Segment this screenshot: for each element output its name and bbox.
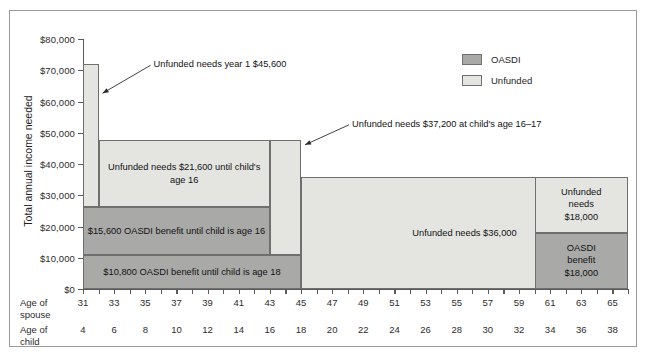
y-tick-label: $30,000 — [40, 190, 75, 201]
x-tick — [535, 289, 536, 294]
x-tick — [176, 289, 177, 294]
y-tick-label: $70,000 — [40, 65, 75, 76]
x-tick-label-child: 18 — [296, 324, 307, 335]
y-tick-label: $20,000 — [40, 221, 75, 232]
x-tick-label-spouse: 53 — [420, 297, 431, 308]
x-tick-label-spouse: 51 — [389, 297, 400, 308]
x-tick — [145, 289, 146, 294]
legend-label-unfunded: Unfunded — [491, 75, 532, 86]
y-tick-label: $80,000 — [40, 34, 75, 45]
chart-legend: OASDI Unfunded — [462, 51, 592, 93]
x-tick-label-spouse: 45 — [296, 297, 307, 308]
x-tick — [83, 289, 84, 294]
x-tick — [472, 289, 473, 294]
x-tick — [566, 289, 567, 294]
y-tick-label: $50,000 — [40, 127, 75, 138]
y-tick-label: $60,000 — [40, 96, 75, 107]
legend-item-unfunded: Unfunded — [462, 72, 592, 88]
x-tick-label-spouse: 57 — [483, 297, 494, 308]
y-tick-label: $40,000 — [40, 159, 75, 170]
x-tick — [457, 289, 458, 294]
y-tick-label: $10,000 — [40, 252, 75, 263]
x-tick — [332, 289, 333, 294]
x-tick — [597, 289, 598, 294]
x-tick — [550, 289, 551, 294]
x-tick — [363, 289, 364, 294]
x-tick — [239, 289, 240, 294]
x-tick — [285, 289, 286, 294]
x-tick-label-spouse: 43 — [265, 297, 276, 308]
x-tick — [301, 289, 302, 294]
x-tick-label-child: 4 — [80, 324, 85, 335]
x-tick-label-spouse: 61 — [545, 297, 556, 308]
x-tick-label-spouse: 55 — [451, 297, 462, 308]
x-tick — [581, 289, 582, 294]
x-tick-label-spouse: 65 — [607, 297, 618, 308]
x-tick-label-spouse: 63 — [576, 297, 587, 308]
x-tick-label-child: 16 — [265, 324, 276, 335]
x-tick — [441, 289, 442, 294]
chart-root: Total annual income needed Age of spouse… — [0, 0, 647, 359]
x-tick — [161, 289, 162, 294]
x-tick-label-spouse: 59 — [514, 297, 525, 308]
x-tick-label-child: 20 — [327, 324, 338, 335]
x-tick-label-child: 26 — [420, 324, 431, 335]
x-tick — [488, 289, 489, 294]
x-tick-label-spouse: 33 — [109, 297, 120, 308]
x-tick — [379, 289, 380, 294]
x-tick — [426, 289, 427, 294]
x-tick-label-child: 10 — [171, 324, 182, 335]
x-tick-label-child: 22 — [358, 324, 369, 335]
x-tick-label-spouse: 31 — [78, 297, 89, 308]
x-tick-label-child: 6 — [111, 324, 116, 335]
x-tick — [394, 289, 395, 294]
x-tick-label-child: 32 — [514, 324, 525, 335]
x-tick-label-child: 34 — [545, 324, 556, 335]
y-tick-label: $0 — [64, 284, 75, 295]
x-tick — [628, 289, 629, 294]
x-tick-label-child: 30 — [483, 324, 494, 335]
x-tick — [130, 289, 131, 294]
x-tick-label-spouse: 47 — [327, 297, 338, 308]
annotation-label: Unfunded needs $37,200 at child's age 16… — [352, 119, 541, 129]
x-tick-label-spouse: 39 — [202, 297, 213, 308]
x-tick-label-child: 8 — [143, 324, 148, 335]
axis-row-label-spouse: Age of spouse — [20, 297, 51, 320]
legend-swatch-unfunded — [462, 75, 482, 86]
x-tick-label-spouse: 35 — [140, 297, 151, 308]
x-tick — [519, 289, 520, 294]
x-axis-line — [83, 289, 628, 290]
x-tick — [348, 289, 349, 294]
x-tick-label-spouse: 49 — [358, 297, 369, 308]
x-tick — [503, 289, 504, 294]
x-tick-label-spouse: 37 — [171, 297, 182, 308]
x-tick-label-child: 12 — [202, 324, 213, 335]
x-tick-label-child: 14 — [233, 324, 244, 335]
axis-row-label-child: Age of child — [20, 324, 47, 347]
legend-swatch-oasdi — [462, 54, 482, 65]
x-tick — [99, 289, 100, 294]
x-tick — [208, 289, 209, 294]
x-tick-label-child: 24 — [389, 324, 400, 335]
x-tick — [612, 289, 613, 294]
x-tick — [114, 289, 115, 294]
y-axis-title: Total annual income needed — [22, 95, 34, 226]
x-tick-label-child: 38 — [607, 324, 618, 335]
x-tick-label-child: 36 — [576, 324, 587, 335]
x-tick-label-child: 28 — [451, 324, 462, 335]
x-tick — [317, 289, 318, 294]
legend-label-oasdi: OASDI — [491, 54, 521, 65]
x-tick — [410, 289, 411, 294]
x-tick — [270, 289, 271, 294]
x-tick — [254, 289, 255, 294]
x-tick-label-spouse: 41 — [233, 297, 244, 308]
chart-frame: Total annual income needed Age of spouse… — [9, 10, 637, 347]
legend-item-oasdi: OASDI — [462, 51, 592, 67]
x-tick — [192, 289, 193, 294]
x-tick — [223, 289, 224, 294]
